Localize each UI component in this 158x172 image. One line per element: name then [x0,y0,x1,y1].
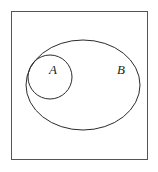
set-a-region [29,56,71,98]
set-b-label: B [117,62,125,77]
diagram-background [0,0,158,172]
venn-diagram-figure: A B [0,0,158,172]
venn-diagram-canvas: A B [0,0,158,172]
